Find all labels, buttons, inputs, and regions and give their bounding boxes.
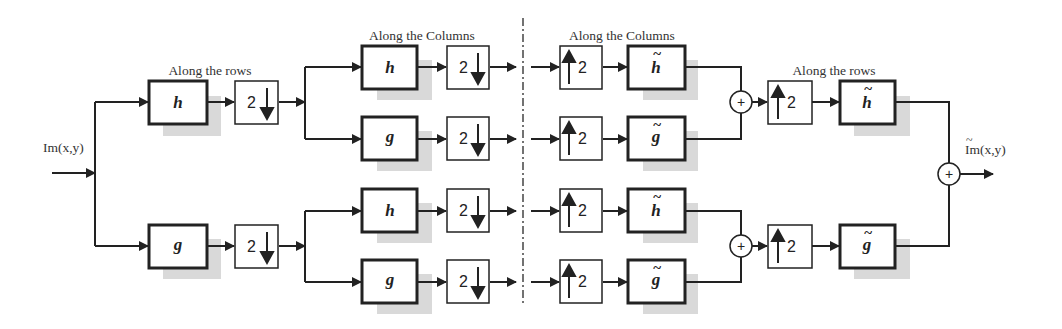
downsample-factor: 2 (459, 59, 468, 76)
tilde-mark: ~ (864, 225, 873, 241)
filter-label-h: h (385, 201, 394, 220)
downsample-box (235, 225, 278, 268)
tilde-mark: ~ (653, 260, 662, 276)
wavelet-filter-bank-diagram: + + + 2 2 2 2 2 2 2 2 2 2 2 2 h g h g h … (0, 0, 1062, 329)
downsample-factor: 2 (247, 238, 256, 255)
filter-label-g: g (385, 270, 395, 289)
upsample-factor: 2 (787, 94, 796, 111)
downsample-box (447, 117, 489, 160)
downsample-box (447, 260, 489, 303)
downsample-box (447, 46, 489, 89)
upsample-factor: 2 (578, 59, 587, 76)
stage-label-analysis-rows: Along the rows (168, 63, 251, 78)
filter-label-h: h (173, 93, 182, 112)
sum-symbol: + (945, 166, 953, 182)
filter-label-g: g (385, 127, 395, 146)
upsample-factor: 2 (578, 202, 587, 219)
upsample-factor: 2 (787, 238, 796, 255)
tilde-mark: ~ (864, 81, 873, 97)
downsample-box (235, 81, 278, 124)
sum-symbol: + (737, 238, 745, 254)
stage-label-analysis-columns: Along the Columns (369, 28, 475, 43)
downsample-factor: 2 (459, 202, 468, 219)
downsample-factor: 2 (459, 130, 468, 147)
upsample-factor: 2 (578, 273, 587, 290)
upsample-factor: 2 (578, 130, 587, 147)
tilde-mark: ~ (653, 117, 662, 133)
stage-label-synthesis-columns: Along the Columns (569, 28, 675, 43)
downsample-factor: 2 (247, 94, 256, 111)
downsample-factor: 2 (459, 273, 468, 290)
output-tilde-mark: ~ (966, 133, 973, 147)
stage-label-synthesis-rows: Along the rows (792, 63, 875, 78)
filter-label-g: g (173, 235, 183, 254)
tilde-mark: ~ (653, 189, 662, 205)
sum-symbol: + (737, 94, 745, 110)
filter-label-h: h (385, 58, 394, 77)
input-signal-label: Im(x,y) (43, 140, 84, 155)
tilde-mark: ~ (653, 46, 662, 62)
downsample-box (447, 189, 489, 232)
